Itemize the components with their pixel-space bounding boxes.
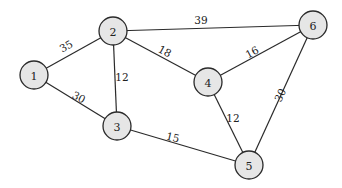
node-2: 2 <box>99 17 127 45</box>
node-label: 3 <box>114 121 121 134</box>
node-3: 3 <box>103 112 131 140</box>
edge-weight-1-3: 30 <box>70 89 87 106</box>
node-6: 6 <box>299 11 327 39</box>
node-label: 6 <box>310 20 317 33</box>
node-label: 5 <box>246 160 253 173</box>
edge-2-6 <box>113 25 313 31</box>
edge-weight-4-5: 12 <box>226 112 239 124</box>
node-label: 1 <box>31 70 38 83</box>
edge-4-6 <box>208 25 313 82</box>
edge-weight-2-6: 39 <box>194 14 207 26</box>
node-4: 4 <box>194 68 222 96</box>
node-5: 5 <box>235 151 263 179</box>
edge-weight-4-6: 16 <box>243 43 261 60</box>
edge-weight-6-5: 30 <box>272 86 289 103</box>
edge-weight-3-5: 15 <box>165 130 181 145</box>
node-label: 2 <box>110 26 117 39</box>
edge-weight-labels: 353012183915161230 <box>57 14 288 144</box>
node-label: 4 <box>205 77 212 90</box>
edge-weight-2-4: 18 <box>156 43 173 60</box>
edge-3-5 <box>117 126 249 165</box>
weighted-graph-diagram: 353012183915161230 123456 <box>0 0 342 188</box>
edge-weight-1-2: 35 <box>57 37 75 54</box>
node-1: 1 <box>20 61 48 89</box>
edge-weight-2-3: 12 <box>115 71 128 83</box>
